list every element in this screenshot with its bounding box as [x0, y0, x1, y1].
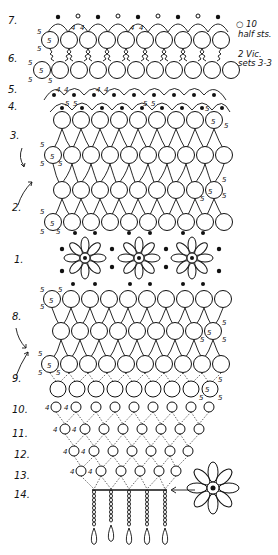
dashed-chains-13-14: [81, 476, 176, 489]
svg-text:5: 5: [47, 37, 52, 45]
detached-flower: [187, 462, 239, 514]
svg-text:5: 5: [205, 105, 210, 113]
row-13-rings: 4 4: [70, 466, 181, 476]
row-label-4: 4.: [8, 101, 18, 112]
svg-text:4: 4: [71, 24, 75, 32]
svg-text:4: 4: [64, 404, 68, 412]
svg-text:5: 5: [40, 208, 45, 216]
row-10-rings-small: 4 4: [45, 402, 214, 412]
svg-text:5: 5: [200, 195, 205, 203]
dangle-2: [108, 490, 113, 542]
open-picot: [76, 14, 80, 18]
row-8-rings-lower: 5 5 5 5: [53, 319, 228, 344]
tatting-diagram: 7. 6. 5. 4. 3. 2. 1. 8. 9. 10. 11. 12. 1…: [0, 0, 278, 555]
svg-text:5: 5: [208, 188, 213, 196]
svg-text:5: 5: [48, 77, 53, 85]
row-label-12: 12.: [14, 449, 30, 460]
dangle-5: [162, 490, 167, 545]
row-label-3: 3.: [10, 130, 20, 141]
row-label-13: 13.: [14, 470, 30, 481]
row-5: 4 4 4 4: [44, 86, 226, 100]
svg-text:5: 5: [199, 394, 204, 402]
svg-text:5: 5: [143, 100, 148, 108]
svg-text:4: 4: [139, 24, 143, 32]
row-1-flowers: [60, 231, 221, 286]
row-label-8: 8.: [12, 311, 22, 322]
svg-text:5: 5: [58, 286, 63, 294]
dangle-3: [126, 490, 131, 545]
svg-text:5: 5: [218, 376, 223, 384]
svg-text:4: 4: [45, 404, 49, 412]
svg-text:5: 5: [40, 141, 45, 149]
svg-text:5: 5: [28, 59, 33, 67]
arrow-9: [16, 352, 28, 376]
dashed-chains-12-13: [74, 456, 188, 468]
svg-text:5: 5: [50, 153, 55, 161]
svg-text:5: 5: [28, 76, 33, 84]
svg-text:4: 4: [96, 86, 100, 94]
row-label-11: 11.: [12, 428, 28, 439]
svg-text:4: 4: [56, 86, 60, 94]
legend: ○ 10 half sts. 2 Vic. sets 3-3: [236, 19, 272, 68]
row-label-1: 1.: [14, 254, 24, 265]
svg-text:5: 5: [65, 100, 70, 108]
flower-3: [171, 237, 213, 279]
row-label-5: 5.: [8, 84, 18, 95]
row-6-victorian-sets: [50, 49, 221, 61]
arrow-3: [20, 148, 24, 166]
closed-picot: [56, 15, 60, 19]
lattice-3: [53, 129, 224, 150]
svg-text:4: 4: [64, 86, 68, 94]
svg-text:4: 4: [130, 24, 134, 32]
row-label-2: 2.: [12, 202, 22, 213]
row-4-rings: 5 5: [54, 112, 230, 131]
svg-text:5: 5: [222, 192, 227, 200]
svg-text:5: 5: [38, 350, 43, 358]
svg-text:5: 5: [211, 118, 216, 126]
svg-text:5: 5: [37, 28, 42, 36]
svg-text:4: 4: [104, 86, 108, 94]
arrow-8: [16, 328, 26, 348]
svg-text:5: 5: [50, 220, 55, 228]
svg-text:4: 4: [70, 468, 74, 476]
svg-text:5: 5: [73, 100, 78, 108]
svg-text:5: 5: [39, 67, 44, 75]
svg-text:5: 5: [200, 336, 205, 344]
legend-vic-desc: sets 3-3: [238, 58, 272, 68]
svg-text:5: 5: [222, 176, 227, 184]
svg-text:5: 5: [222, 336, 227, 344]
svg-text:4: 4: [88, 468, 92, 476]
svg-text:4: 4: [63, 448, 67, 456]
row-label-6: 6.: [8, 53, 18, 64]
svg-text:5: 5: [37, 45, 42, 53]
row-labels: 7. 6. 5. 4. 3. 2. 1. 8. 9. 10. 11. 12. 1…: [8, 15, 30, 500]
flower-2: [118, 237, 160, 279]
svg-text:5: 5: [56, 369, 61, 377]
svg-text:5: 5: [40, 303, 45, 311]
svg-text:5: 5: [40, 160, 45, 168]
dashed-chains-11-12: [65, 434, 199, 446]
row-6-rings-lower: 5 5 5 5: [28, 59, 240, 85]
legend-picot: ○ 10: [236, 19, 257, 29]
svg-text:5: 5: [205, 386, 210, 394]
svg-text:5: 5: [40, 228, 45, 236]
svg-text:5: 5: [58, 160, 63, 168]
svg-text:4: 4: [53, 426, 57, 434]
dangle-4: [144, 490, 149, 545]
svg-text:5: 5: [218, 394, 223, 402]
svg-text:5: 5: [207, 329, 212, 337]
row-label-7: 7.: [8, 15, 18, 26]
row-12-rings: 4 4: [63, 446, 193, 456]
row-11-rings: 4 4: [53, 424, 204, 434]
row-14: [91, 490, 167, 545]
svg-text:5: 5: [47, 362, 52, 370]
svg-text:4: 4: [80, 24, 84, 32]
row-8-rings-upper: 5 5 5 5: [40, 286, 232, 311]
svg-text:5: 5: [224, 122, 229, 130]
row-10-rings-upper: 5 5 5 5: [50, 376, 223, 402]
row-label-10: 10.: [12, 404, 28, 415]
row-7: 4 4 4 4: [48, 14, 228, 32]
svg-text:4: 4: [72, 426, 76, 434]
svg-text:4: 4: [81, 448, 85, 456]
svg-text:5: 5: [151, 100, 156, 108]
